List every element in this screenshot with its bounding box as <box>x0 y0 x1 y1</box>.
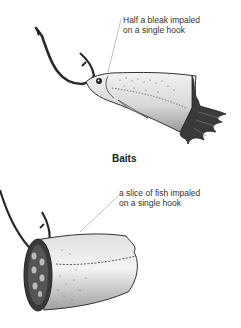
callout-half-bleak: Half a bleak impaled on a single hook <box>123 15 200 35</box>
callout-line: a slice of fish impaled <box>119 188 200 198</box>
figure-title: Baits <box>112 153 136 164</box>
callout-fish-slice: a slice of fish impaled on a single hook <box>119 188 200 208</box>
fish-slice-illustration <box>24 234 137 311</box>
leader-line-2 <box>80 196 118 232</box>
half-bleak-illustration <box>86 72 226 144</box>
hook-icon <box>35 26 94 84</box>
callout-line: on a single hook <box>123 25 200 35</box>
bait-illustrations <box>0 0 241 328</box>
callout-line: on a single hook <box>119 198 200 208</box>
leader-line-1 <box>108 19 121 72</box>
callout-line: Half a bleak impaled <box>123 15 200 25</box>
